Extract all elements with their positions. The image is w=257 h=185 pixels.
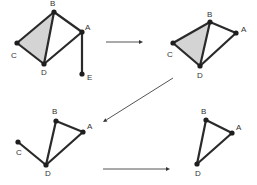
edge-B-A	[56, 121, 83, 132]
vertex-label-D: D	[45, 169, 51, 178]
vertex-label-A: A	[241, 25, 247, 34]
panel-4: BAD	[194, 107, 242, 178]
vertex-B	[203, 117, 208, 122]
vertex-C	[170, 40, 175, 45]
vertex-label-E: E	[87, 73, 92, 82]
panel-2: BACD	[167, 10, 247, 80]
vertex-D	[194, 161, 199, 166]
transition-arrow	[106, 40, 143, 44]
vertex-B	[207, 19, 212, 24]
vertex-label-A: A	[236, 123, 242, 132]
edge-B-A	[206, 120, 232, 133]
vertex-label-D: D	[41, 68, 47, 77]
edge-B-A	[54, 12, 82, 32]
vertex-label-B: B	[52, 107, 57, 116]
vertex-D	[197, 63, 202, 68]
vertex-label-B: B	[50, 0, 55, 8]
transition-arrow	[103, 167, 170, 171]
panel-1: BACDE	[11, 0, 92, 82]
vertex-label-D: D	[195, 169, 201, 178]
vertex-C	[15, 139, 20, 144]
vertex-D	[41, 61, 46, 66]
vertex-label-C: C	[16, 148, 22, 157]
vertex-B	[51, 9, 56, 14]
arrowhead-icon	[139, 40, 143, 44]
vertex-label-D: D	[197, 71, 203, 80]
vertex-D	[43, 162, 48, 167]
vertex-A	[233, 30, 238, 35]
vertex-A	[79, 29, 84, 34]
panel-3: BACD	[15, 107, 93, 178]
vertex-A	[229, 130, 234, 135]
vertex-label-A: A	[85, 23, 91, 32]
vertex-label-C: C	[11, 51, 17, 60]
vertex-C	[14, 40, 19, 45]
graph-reduction-diagram: BACDEBACDBACDBAD	[0, 0, 257, 185]
vertex-E	[79, 71, 84, 76]
vertex-label-B: B	[207, 10, 212, 19]
vertex-label-A: A	[87, 122, 93, 131]
edge-B-A	[210, 22, 236, 33]
vertex-label-C: C	[167, 50, 173, 59]
vertex-label-B: B	[201, 107, 206, 116]
edge-C-D	[18, 142, 46, 165]
vertex-A	[80, 129, 85, 134]
transition-arrow	[103, 78, 173, 122]
diagram-canvas: BACDEBACDBACDBAD	[0, 0, 257, 185]
arrowhead-icon	[166, 167, 170, 171]
vertex-B	[53, 118, 58, 123]
